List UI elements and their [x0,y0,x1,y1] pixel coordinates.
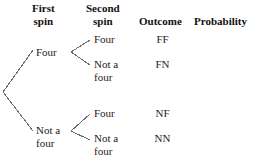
probability-nn[interactable] [194,132,249,144]
probability-nf[interactable] [194,107,249,119]
node-second-spin-notfour-not-a-four: Not a four [94,132,118,157]
node-first-spin-not-a-four-line2: four [36,137,60,150]
header-second-spin: Second spin [86,2,120,28]
branch-root-to-not-a-four [3,92,33,131]
header-outcome: Outcome [139,15,182,28]
header-probability: Probability [194,15,247,28]
node-first-spin-four: Four [36,46,57,59]
branch-four-to-four [71,40,90,52]
header-first-spin: First spin [32,2,55,28]
outcome-ff: FF [140,33,185,45]
outcome-nf: NF [140,107,185,119]
node-second-spin-four-not-a-four-line2: four [94,71,118,84]
node-first-spin-not-a-four: Not a four [36,124,60,149]
branch-root-to-four [3,50,33,92]
branch-not-a-four-to-four [71,114,90,131]
node-second-spin-notfour-not-a-four-line1: Not a [94,132,118,145]
header-outcome-line1: Outcome [139,15,182,28]
header-probability-line1: Probability [194,15,247,28]
node-second-spin-notfour-four-line1: Four [94,107,115,120]
header-second-spin-line2: spin [86,15,120,28]
probability-ff[interactable] [194,33,249,45]
node-second-spin-notfour-not-a-four-line2: four [94,145,118,158]
probability-tree-diagram: First spin Second spin Outcome Probabili… [0,0,253,164]
outcome-nn: NN [140,132,185,144]
probability-fn[interactable] [194,58,249,70]
node-second-spin-four-four-line1: Four [94,33,115,46]
outcome-fn: FN [140,58,185,70]
header-second-spin-line1: Second [86,2,120,15]
branch-four-to-not-a-four [71,52,90,65]
header-first-spin-line2: spin [32,15,55,28]
node-first-spin-four-line1: Four [36,46,57,59]
node-second-spin-four-four: Four [94,33,115,46]
node-second-spin-four-not-a-four-line1: Not a [94,58,118,71]
node-second-spin-four-not-a-four: Not a four [94,58,118,83]
node-second-spin-notfour-four: Four [94,107,115,120]
header-first-spin-line1: First [32,2,55,15]
node-first-spin-not-a-four-line1: Not a [36,124,60,137]
branch-not-a-four-to-not-a-four [71,131,90,140]
